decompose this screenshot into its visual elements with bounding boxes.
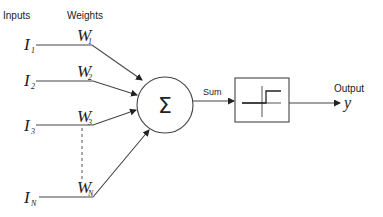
activation-box [235, 78, 289, 122]
input-n-connection [39, 130, 149, 197]
weight-3-subscript: 3 [87, 118, 92, 127]
input-1-subscript: 1 [31, 46, 35, 55]
input-1-symbol: I [23, 35, 31, 54]
input-2: I 2 W 2 [23, 62, 137, 95]
input-3: I 3 W 3 [23, 107, 136, 136]
weights-header: Weights [67, 10, 103, 21]
input-2-connection [36, 81, 137, 95]
input-2-subscript: 2 [31, 82, 35, 91]
input-2-symbol: I [23, 71, 31, 90]
summation-node: Σ [137, 77, 193, 133]
sum-label: Sum [203, 87, 222, 97]
input-3-symbol: I [23, 116, 31, 135]
inputs-header: Inputs [3, 10, 30, 21]
input-3-subscript: 3 [30, 127, 35, 136]
sigma-icon: Σ [158, 93, 172, 118]
input-n: I N W N [23, 130, 149, 208]
perceptron-diagram: Inputs Weights I 1 W 1 I 2 W 2 I 3 W 3 I… [0, 0, 383, 217]
input-n-subscript: N [30, 199, 37, 208]
output-symbol: y [342, 94, 352, 112]
output-label: Output [334, 83, 364, 94]
input-n-symbol: I [23, 188, 31, 207]
